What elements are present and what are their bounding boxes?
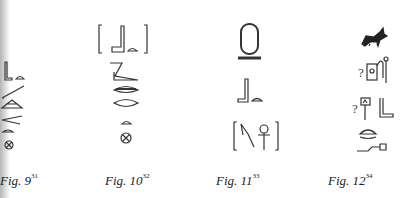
fig11-caption: Fig. 1133 — [216, 173, 260, 189]
svg-text:?: ? — [352, 101, 358, 116]
fig11-glyphs — [190, 0, 290, 170]
fig10-caption: Fig. 1032 — [105, 173, 150, 189]
fig12-glyphs: ? ? — [300, 0, 410, 190]
fig10-glyphs — [90, 0, 190, 170]
fig9-caption: Fig. 931 — [0, 173, 38, 189]
uncertain-mark: ? — [358, 65, 364, 80]
fig9-glyphs — [0, 0, 40, 160]
fig12-caption: Fig. 1234 — [328, 173, 373, 189]
